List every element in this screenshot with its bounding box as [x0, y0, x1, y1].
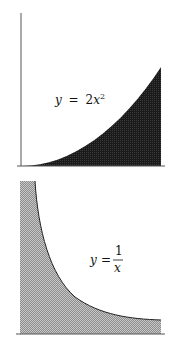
- chart-parabola: y = 2x2: [17, 13, 165, 166]
- hyperbola-label: y = 1 x: [89, 244, 123, 275]
- svg-text:y: y: [89, 253, 97, 267]
- svg-text:1: 1: [115, 244, 123, 258]
- parabola-label: y = 2x2: [54, 92, 105, 107]
- figure: y = 2x2 y = 1 x: [0, 0, 175, 349]
- chart-hyperbola: y = 1 x: [16, 181, 165, 334]
- svg-text:=: =: [101, 253, 111, 267]
- parabola-area: [22, 67, 161, 166]
- svg-text:x: x: [114, 261, 121, 275]
